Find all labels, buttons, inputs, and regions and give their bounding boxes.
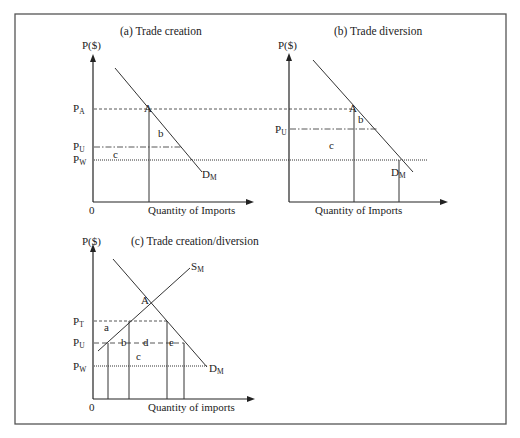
panel-c-area-a: a — [104, 321, 109, 333]
panel-c-demand-curve — [113, 259, 207, 367]
panel-a-point-a: A — [144, 102, 152, 114]
panel-c-demand-label: DM — [209, 362, 224, 376]
panel-a-demand-label: DM — [202, 168, 217, 182]
panel-c-pu-label: PU — [73, 336, 85, 350]
figure-frame — [15, 14, 506, 424]
panel-a-title: (a) Trade creation — [120, 25, 202, 38]
panel-a-trade-creation: (a) Trade creation P($) 0 Quantity of Im… — [73, 25, 427, 216]
panel-a-pa-label: PA — [73, 102, 85, 116]
panel-c-origin-label: 0 — [89, 401, 95, 413]
panel-b-demand-label: DM — [391, 166, 406, 180]
panel-a-demand-curve — [115, 68, 202, 172]
panel-c-area-c: c — [136, 350, 141, 362]
panel-c-area-e: e — [169, 336, 174, 348]
panel-c-title: (c) Trade creation/diversion — [131, 235, 259, 248]
panel-c-trade-creation-diversion: P($) (c) Trade creation/diversion 0 Quan… — [73, 235, 259, 413]
panel-b-x-axis-label: Quantity of Imports — [315, 204, 402, 216]
panel-c-supply-label: SM — [191, 260, 204, 274]
panel-b-trade-diversion: (b) Trade diversion P($) Quantity of Imp… — [275, 25, 444, 216]
panel-c-area-b: b — [121, 336, 127, 348]
panel-a-origin-label: 0 — [89, 204, 95, 216]
panel-b-point-a: A — [349, 102, 357, 114]
trade-diagram: (a) Trade creation P($) 0 Quantity of Im… — [0, 0, 520, 438]
panel-b-area-b: b — [358, 113, 364, 125]
panel-c-pt-label: PT — [73, 315, 84, 329]
panel-c-y-axis-label: P($) — [82, 235, 101, 248]
panel-a-pu-label: PU — [73, 140, 85, 154]
panel-b-area-c: c — [329, 139, 334, 151]
panel-c-pw-label: PW — [73, 360, 87, 374]
panel-b-y-axis-label: P($) — [278, 39, 297, 52]
panel-b-title: (b) Trade diversion — [334, 25, 422, 38]
panel-a-pw-label: PW — [73, 153, 87, 167]
panel-a-x-axis-label: Quantity of Imports — [148, 204, 235, 216]
panel-a-area-c: c — [113, 148, 118, 160]
panel-a-y-axis-label: P($) — [82, 39, 101, 52]
panel-c-area-d: d — [143, 336, 149, 348]
panel-b-pu-label: PU — [275, 123, 287, 137]
panel-a-area-b: b — [158, 127, 164, 139]
panel-c-x-axis-label: Quantity of imports — [148, 401, 235, 413]
panel-c-point-a: A — [141, 294, 149, 306]
